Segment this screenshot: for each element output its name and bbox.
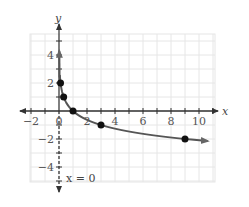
x-tick-label: 10 [192, 115, 206, 128]
grid [30, 34, 215, 182]
data-point [60, 94, 67, 101]
x-tick-label: −2 [23, 115, 39, 128]
chart: −20246810−4−224 x y x = 0 [0, 0, 249, 207]
x-tick-label: 6 [140, 115, 147, 128]
asymptote-label: x = 0 [66, 172, 95, 185]
y-axis-label: y [54, 12, 62, 25]
x-tick-label: 4 [112, 115, 119, 128]
data-point [98, 122, 105, 129]
y-tick-label: −2 [38, 133, 54, 146]
y-tick-label: −4 [38, 161, 54, 174]
x-tick-label: 0 [56, 115, 63, 128]
data-point [57, 80, 64, 87]
y-tick-label: 4 [47, 49, 54, 62]
x-tick-label: 2 [84, 115, 91, 128]
axes [20, 24, 218, 181]
x-axis-label: x [222, 105, 229, 118]
x-tick-label: 8 [168, 115, 175, 128]
curve [59, 51, 208, 141]
y-tick-label: 2 [47, 77, 54, 90]
data-point [70, 108, 77, 115]
data-point [182, 136, 189, 143]
